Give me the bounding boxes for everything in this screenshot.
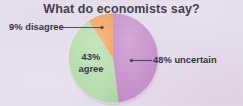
slice-label-disagree: 9% disagree [9,22,64,32]
chart-figure: What do economists say? [0,0,243,106]
pie-chart-graphic [0,0,243,106]
slice-label-agree-text: agree [69,64,113,76]
leader-dot-disagree [100,26,103,29]
slice-label-uncertain: 48% uncertain [153,55,217,65]
pie-slice-uncertain [113,13,158,103]
slice-label-agree: 43% agree [69,52,113,75]
slice-label-agree-percent: 43% [69,52,113,64]
